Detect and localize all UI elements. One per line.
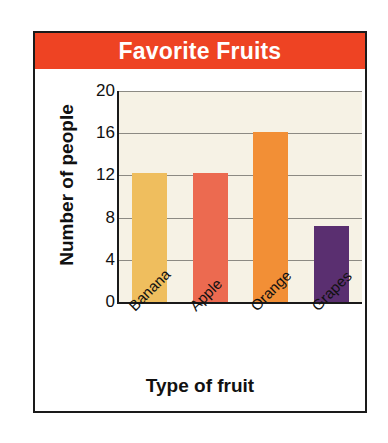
chart-page: Favorite Fruits Number of people 0481216…: [0, 0, 388, 443]
plot-region: Number of people 048121620 BananaAppleOr…: [35, 69, 365, 413]
y-tick-label: 0: [79, 292, 115, 312]
y-tick-label: 12: [79, 165, 115, 185]
y-axis-tick-labels: 048121620: [79, 69, 115, 413]
chart-title-banner: Favorite Fruits: [35, 33, 365, 69]
chart-title: Favorite Fruits: [119, 38, 282, 65]
y-axis-title: Number of people: [56, 90, 78, 280]
x-axis-tick-labels: BananaAppleOrangeGrapes: [117, 302, 360, 376]
y-tick-label: 8: [79, 208, 115, 228]
y-tick-label: 16: [79, 123, 115, 143]
x-axis-title: Type of fruit: [35, 375, 365, 397]
y-tick-label: 20: [79, 81, 115, 101]
chart-card: Favorite Fruits Number of people 0481216…: [33, 31, 367, 413]
y-tick-label: 4: [79, 250, 115, 270]
